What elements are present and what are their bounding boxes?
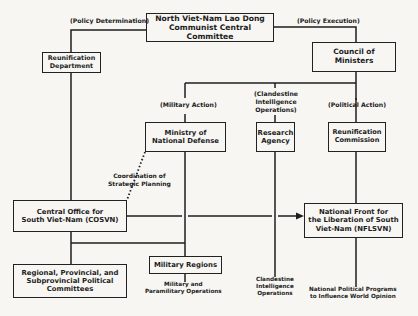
node-label: Research [258, 129, 294, 137]
label-line: Paramilitary Operations [145, 288, 222, 295]
node-label: National Defense [152, 137, 219, 145]
node-label: Committees [22, 285, 119, 293]
edge-label-military-action: (Military Action) [160, 101, 217, 109]
edge-label-clandestine-operations: (Clandestine Intelligence Operations) [254, 90, 298, 113]
node-label: the Liberation of South [308, 216, 398, 224]
node-council-of-ministers: Council of Ministers [312, 42, 396, 72]
node-nflsvn: National Front for the Liberation of Sou… [304, 203, 403, 238]
node-label: Council of Ministers [313, 48, 395, 66]
output-military-operations: Military and Paramilitary Operations [145, 281, 222, 295]
edge-label-coordination: Coordination of Strategic Planning [108, 172, 171, 187]
node-label: National Front for [308, 208, 398, 216]
edge-label-policy-execution: (Policy Execution) [297, 17, 360, 25]
output-national-programs: National Political Programs to Influence… [309, 286, 397, 300]
label-line: Operations) [254, 106, 298, 114]
node-military-regions: Military Regions [149, 256, 222, 274]
output-clandestine-operations: Clandestine Intelligence Operations [256, 276, 294, 297]
node-label: Department [48, 63, 96, 71]
node-label: Subprovincial Political [22, 277, 119, 285]
node-label: Central Office for [22, 208, 119, 216]
node-research-agency: Research Agency [256, 122, 295, 152]
edge-label-political-action: (Political Action) [328, 101, 386, 109]
arrowhead-icon [296, 213, 304, 220]
node-central-committee: North Viet-Nam Lao Dong Communist Centra… [146, 13, 274, 42]
label-line: Strategic Planning [108, 180, 171, 188]
label-line: Coordination of [108, 172, 171, 180]
node-label: Regional, Provincial, and [22, 269, 119, 277]
node-label: Agency [258, 137, 294, 145]
node-reunification-commission: Reunification Commission [328, 122, 386, 152]
node-label: Communist Central Committee [147, 23, 273, 41]
node-label: South Viet-Nam (COSVN) [22, 216, 119, 224]
label-line: Military and [145, 281, 222, 288]
node-label: Ministry of [152, 129, 219, 137]
label-line: Intelligence [256, 283, 294, 290]
node-regional-committees: Regional, Provincial, and Subprovincial … [13, 264, 127, 298]
node-label: Military Regions [154, 261, 217, 269]
node-reunification-department: Reunification Department [42, 52, 101, 73]
node-label: Viet-Nam (NFLSVN) [308, 225, 398, 233]
label-line: (Clandestine [254, 90, 298, 98]
node-label: Commission [332, 137, 381, 145]
node-ministry-national-defense: Ministry of National Defense [145, 122, 226, 152]
node-cosvn: Central Office for South Viet-Nam (COSVN… [13, 200, 127, 232]
edge-label-policy-determination: (Policy Determination) [70, 17, 149, 25]
label-line: to Influence World Opinion [309, 293, 397, 300]
org-chart: North Viet-Nam Lao Dong Communist Centra… [0, 0, 418, 316]
node-label: North Viet-Nam Lao Dong [147, 14, 273, 23]
label-line: Operations [256, 290, 294, 297]
label-line: Intelligence [254, 98, 298, 106]
label-line: Clandestine [256, 276, 294, 283]
label-line: National Political Programs [309, 286, 397, 293]
